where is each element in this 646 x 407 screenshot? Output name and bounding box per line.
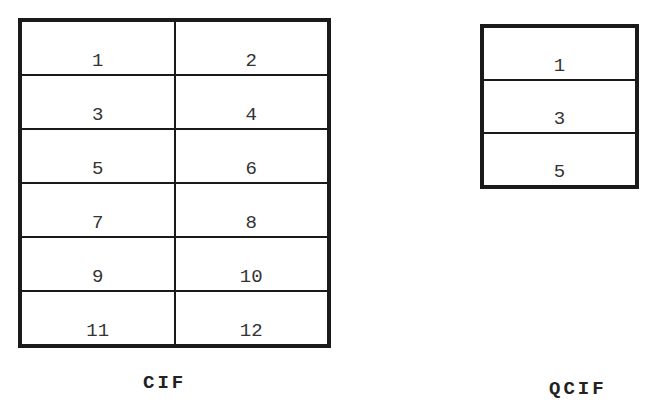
cell-label: 6 <box>246 160 257 179</box>
cif-cell-9: 9 <box>21 237 175 291</box>
cif-cell-3: 3 <box>21 75 175 129</box>
cell-label: 3 <box>92 106 103 125</box>
cell-label: 2 <box>246 52 257 71</box>
cell-label: 11 <box>86 322 109 341</box>
cif-cell-12: 12 <box>175 291 329 345</box>
cell-label: 5 <box>92 160 103 179</box>
cell-label: 1 <box>554 57 565 76</box>
cif-cell-8: 8 <box>175 183 329 237</box>
cif-grid: 1 2 3 4 5 6 7 8 9 10 11 12 <box>18 18 331 348</box>
cell-label: 7 <box>92 214 103 233</box>
qcif-cell-3: 3 <box>483 80 636 133</box>
cif-cell-5: 5 <box>21 129 175 183</box>
cif-cell-6: 6 <box>175 129 329 183</box>
cell-label: 10 <box>240 268 263 287</box>
cell-label: 5 <box>554 163 565 182</box>
cif-cell-4: 4 <box>175 75 329 129</box>
qcif-grid: 1 3 5 <box>480 24 639 189</box>
cell-label: 3 <box>554 110 565 129</box>
cif-cell-7: 7 <box>21 183 175 237</box>
cell-label: 9 <box>92 268 103 287</box>
qcif-caption: QCIF <box>549 378 607 400</box>
cif-cell-1: 1 <box>21 21 175 75</box>
cell-label: 1 <box>92 52 103 71</box>
cif-cell-11: 11 <box>21 291 175 345</box>
cell-label: 8 <box>246 214 257 233</box>
cell-label: 12 <box>240 322 263 341</box>
qcif-cell-5: 5 <box>483 133 636 186</box>
cell-label: 4 <box>246 106 257 125</box>
cif-cell-2: 2 <box>175 21 329 75</box>
qcif-cell-1: 1 <box>483 27 636 80</box>
cif-caption: CIF <box>143 372 186 394</box>
cif-cell-10: 10 <box>175 237 329 291</box>
